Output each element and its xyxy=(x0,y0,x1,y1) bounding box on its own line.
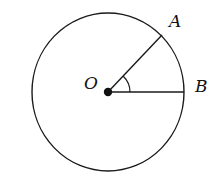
label-b: B xyxy=(194,76,208,96)
center-point-o xyxy=(104,88,112,96)
circle-diagram: O A B xyxy=(0,0,215,176)
label-a: A xyxy=(167,11,181,31)
label-o: O xyxy=(84,73,98,93)
angle-arc-aob xyxy=(123,76,130,92)
radius-oa xyxy=(108,35,162,92)
